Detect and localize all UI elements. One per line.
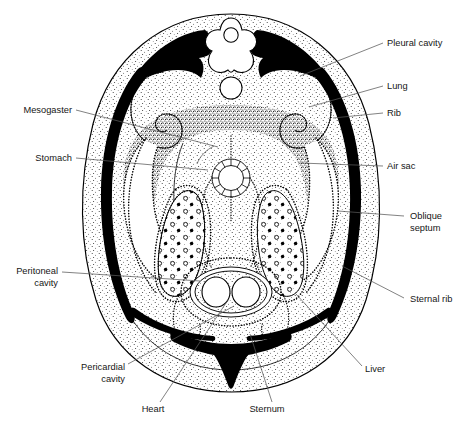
label-lung: Lung	[387, 81, 408, 91]
heart-chamber-left	[202, 277, 230, 307]
label-mesogaster: Mesogaster	[23, 105, 72, 115]
label-peritoneal-cavity-line2: cavity	[34, 278, 58, 288]
label-pericardial-cavity-line1: Pericardial	[81, 362, 125, 372]
label-pericardial-cavity: Pericardial cavity	[81, 362, 125, 384]
label-heart: Heart	[142, 404, 165, 414]
anatomical-cross-section: Mesogaster Stomach Peritoneal cavity Per…	[0, 0, 462, 429]
label-peritoneal-cavity: Peritoneal cavity	[16, 266, 58, 288]
aorta	[220, 77, 242, 99]
heart-chamber-right	[232, 277, 260, 307]
spinal-cord	[224, 28, 238, 42]
label-oblique-septum-line1: Oblique	[410, 211, 442, 221]
label-oblique-septum: Oblique septum	[410, 211, 442, 233]
label-air-sac: Air sac	[387, 161, 416, 171]
label-sternum: Sternum	[249, 404, 284, 414]
heart	[190, 267, 272, 317]
label-pericardial-cavity-line2: cavity	[101, 374, 125, 384]
figure-canvas: Mesogaster Stomach Peritoneal cavity Per…	[0, 0, 462, 429]
label-rib: Rib	[387, 108, 401, 118]
label-stomach: Stomach	[35, 153, 72, 163]
label-liver: Liver	[365, 364, 385, 374]
label-oblique-septum-line2: septum	[410, 223, 441, 233]
label-sternal-rib: Sternal rib	[410, 294, 452, 304]
label-peritoneal-cavity-line1: Peritoneal	[16, 266, 58, 276]
label-pleural-cavity: Pleural cavity	[387, 38, 443, 48]
